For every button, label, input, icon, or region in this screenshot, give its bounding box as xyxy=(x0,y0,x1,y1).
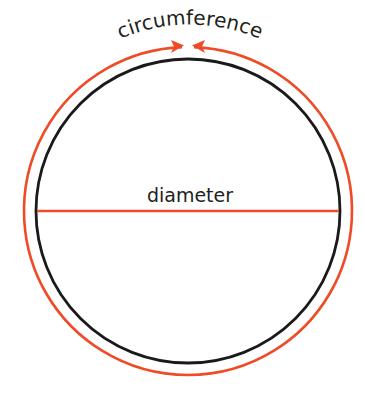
diameter-label: diameter xyxy=(147,184,233,206)
circumference-label: circumference xyxy=(113,5,266,43)
circle-diagram: diameter circumference xyxy=(0,0,365,403)
